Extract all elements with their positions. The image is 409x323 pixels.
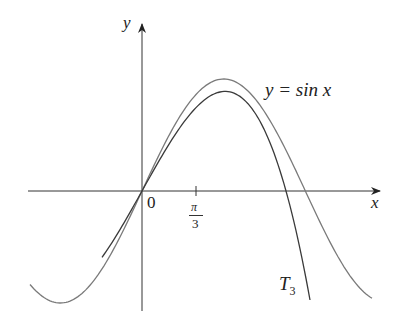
taylor-polynomial-figure: y x 0 π 3 y = sin x T3 [0,0,409,323]
origin-label: 0 [147,193,156,213]
t3-label: T3 [279,273,296,299]
y-axis-label: y [123,13,131,33]
tick-label-denominator: 3 [192,216,199,232]
x-axis-label: x [371,193,379,213]
t3-curve [102,91,310,300]
t3-label-sub: 3 [290,284,296,298]
plot-area [0,0,409,323]
sin-curve-label: y = sin x [265,79,331,101]
t3-label-main: T [279,273,290,294]
tick-label-numerator: π [191,200,197,215]
